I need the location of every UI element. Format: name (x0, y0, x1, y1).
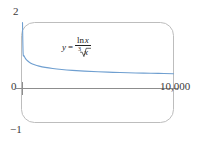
equation-denominator: 3 x (78, 46, 88, 58)
radicand: x (84, 48, 88, 57)
equation-lhs: y (62, 43, 66, 52)
data-curve (23, 23, 174, 74)
radical-index: 3 (78, 46, 81, 52)
y-axis-tick-label-bottom: −1 (10, 124, 22, 135)
x-axis-tick-label-max: 10,000 (160, 81, 190, 92)
equation-numerator: ln x (75, 36, 91, 46)
equation-annotation: y = ln x 3 x (62, 36, 91, 58)
y-axis-tick-label-top: 2 (13, 6, 19, 17)
plot-frame (22, 23, 174, 123)
y-axis-tick-label-zero: 0 (11, 81, 17, 92)
function-plot (0, 0, 198, 143)
equation-equals-sign: = (68, 43, 73, 52)
equation-fraction: ln x 3 x (75, 36, 91, 58)
